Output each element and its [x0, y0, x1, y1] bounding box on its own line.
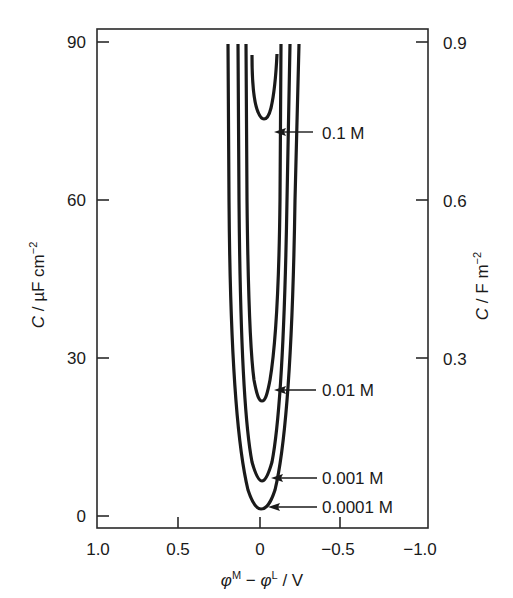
x-unit: / V: [278, 571, 304, 590]
annotation-0.001M: 0.001 M: [271, 469, 383, 488]
tick-label-bottom-1.0: 1.0: [86, 540, 110, 559]
x-minus: −: [241, 571, 260, 590]
y-right-c: C: [473, 307, 492, 320]
tick-label-left-30: 30: [67, 349, 86, 368]
tick-label-bottom-0.5: 0.5: [166, 540, 190, 559]
x-phi-2: φ: [260, 571, 271, 590]
y-right-axis-title: C / F m−2: [471, 252, 492, 320]
tick-label-bottom-0: 0: [255, 540, 264, 559]
plot-frame: [97, 29, 428, 528]
x-sup-m: M: [232, 569, 241, 581]
curve-0.1M: [252, 54, 277, 119]
y-left-exp: −2: [27, 242, 39, 255]
tick-label-left-0: 0: [77, 507, 86, 526]
tick-label-left-90: 90: [67, 33, 86, 52]
annotation-0.0001M: 0.0001 M: [268, 498, 393, 517]
tick-label-left-60: 60: [67, 191, 86, 210]
tick-label-right-0.6: 0.6: [443, 192, 467, 211]
y-right-unit: / F m: [473, 264, 492, 307]
label-0.01M: 0.01 M: [322, 381, 374, 400]
y-left-c: C: [29, 315, 48, 328]
tick-label-right-0.9: 0.9: [443, 34, 467, 53]
label-0.1M: 0.1 M: [322, 124, 365, 143]
x-axis-title: φM − φL / V: [221, 569, 304, 590]
tick-label-bottom-neg0.5: −0.5: [321, 540, 355, 559]
y-left-axis-title: C / µF cm−2: [27, 242, 48, 329]
tick-label-right-0.3: 0.3: [443, 350, 467, 369]
x-phi-1: φ: [221, 571, 232, 590]
curve-0.01M: [246, 44, 281, 401]
y-left-unit: / µF cm: [29, 254, 48, 316]
label-0.001M: 0.001 M: [322, 469, 383, 488]
capacitance-chart: 90 60 30 0 0.9 0.6 0.3 1.0 0.5 0 −0.5 −1…: [0, 0, 513, 598]
label-0.0001M: 0.0001 M: [322, 498, 393, 517]
y-right-exp: −2: [471, 252, 483, 265]
tick-label-bottom-neg1.0: −1.0: [403, 540, 437, 559]
